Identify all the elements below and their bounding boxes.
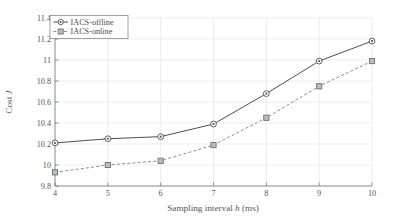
offline-data-marker-dot bbox=[107, 138, 109, 140]
y-tick-label: 10.8 bbox=[37, 77, 51, 86]
offline-data-marker-dot bbox=[160, 136, 162, 138]
y-tick-label: 10.6 bbox=[37, 98, 51, 107]
x-tick-label: 5 bbox=[106, 189, 110, 198]
y-tick-label: 10.2 bbox=[37, 140, 51, 149]
x-tick-label: 9 bbox=[317, 189, 321, 198]
x-tick-label: 6 bbox=[159, 189, 163, 198]
y-tick-label: 10.4 bbox=[37, 119, 51, 128]
x-tick-label: 7 bbox=[211, 189, 215, 198]
chart-figure: 9.81010.210.410.610.81111.211.4 45678910… bbox=[0, 0, 393, 219]
offline-data-marker-dot bbox=[54, 142, 56, 144]
chart-legend[interactable]: IACS-offline IACS-online bbox=[50, 16, 128, 39]
y-tick-label: 9.8 bbox=[41, 182, 51, 191]
x-axis-ticks: 45678910 bbox=[53, 183, 376, 198]
x-tick-label: 4 bbox=[53, 189, 57, 198]
online-data-marker bbox=[105, 162, 110, 167]
online-data-marker bbox=[264, 115, 269, 120]
legend-label-online: IACS-online bbox=[71, 27, 113, 36]
x-axis-title-text: Sampling interval h (ms) bbox=[167, 203, 259, 213]
y-axis-title-text: Cost J bbox=[4, 89, 14, 113]
y-tick-label: 11 bbox=[43, 56, 51, 65]
legend-online-square-icon bbox=[58, 29, 63, 34]
online-data-marker bbox=[52, 170, 57, 175]
online-data-marker bbox=[211, 142, 216, 147]
grid-lines bbox=[55, 18, 372, 186]
x-tick-label: 8 bbox=[264, 189, 268, 198]
legend-label-offline: IACS-offline bbox=[71, 18, 114, 27]
offline-data-marker-dot bbox=[318, 60, 320, 62]
chart-canvas: 9.81010.210.410.610.81111.211.4 45678910… bbox=[0, 0, 393, 219]
legend-offline-circle-dot-icon bbox=[60, 21, 62, 23]
y-axis-title: Cost J bbox=[4, 89, 14, 113]
y-tick-label: 11.2 bbox=[37, 35, 51, 44]
y-tick-label: 10 bbox=[43, 161, 51, 170]
y-tick-label: 11.4 bbox=[37, 14, 51, 23]
offline-data-marker-dot bbox=[371, 40, 373, 42]
offline-data-marker-dot bbox=[265, 93, 267, 95]
online-data-marker bbox=[369, 58, 374, 63]
offline-data-marker-dot bbox=[212, 123, 214, 125]
x-axis-title: Sampling interval h (ms) bbox=[167, 203, 259, 213]
x-tick-label: 10 bbox=[368, 189, 376, 198]
online-data-marker bbox=[317, 84, 322, 89]
online-data-marker bbox=[158, 158, 163, 163]
